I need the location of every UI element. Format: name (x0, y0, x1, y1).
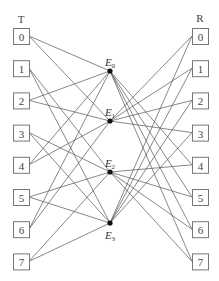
left-box-2: 2 (14, 93, 30, 109)
left-box-1: 1 (14, 61, 30, 77)
edge-t1-e2 (29, 68, 110, 172)
node-e3: E3 (104, 220, 116, 243)
edge-t5-e3 (29, 197, 110, 223)
edge-t1-e3 (29, 68, 110, 223)
right-box-label: 0 (198, 31, 204, 43)
right-box-0: 0 (193, 29, 209, 45)
left-box-label: 6 (19, 224, 25, 236)
edge-e3-r2 (110, 100, 192, 223)
network-diagram: T R 01234567 01234567 E0E1E2E3 (0, 0, 219, 281)
node-e1: E1 (104, 106, 116, 124)
edge-t4-e1 (29, 121, 110, 165)
node-label: E2 (104, 157, 116, 171)
edge-e2-r7 (110, 172, 192, 261)
edge-t7-e2 (29, 172, 110, 261)
edge-e2-r5 (110, 172, 192, 197)
node-label: E3 (104, 229, 116, 243)
edge-e1-r3 (110, 121, 192, 133)
right-box-label: 2 (198, 95, 204, 107)
left-column-label: T (18, 13, 25, 25)
edge-t2-e0 (29, 71, 110, 100)
left-box-label: 2 (19, 95, 25, 107)
edge-e1-r0 (110, 36, 192, 121)
left-box-3: 3 (14, 125, 30, 141)
left-box-label: 5 (19, 192, 25, 204)
left-box-0: 0 (14, 29, 30, 45)
right-box-7: 7 (193, 254, 209, 270)
left-box-6: 6 (14, 222, 30, 238)
edge-e2-r6 (110, 172, 192, 229)
right-boxes: 01234567 (193, 29, 209, 270)
right-box-label: 7 (198, 256, 204, 268)
edge-t0-e0 (29, 36, 110, 71)
right-box-label: 5 (198, 192, 204, 204)
right-box-1: 1 (193, 61, 209, 77)
right-box-6: 6 (193, 222, 209, 238)
right-box-4: 4 (193, 157, 209, 173)
left-box-label: 1 (19, 63, 25, 75)
edge-t6-e0 (29, 71, 110, 229)
right-box-label: 4 (198, 160, 204, 172)
edge-e3-r1 (110, 68, 192, 223)
node-label: E1 (104, 106, 116, 120)
left-box-5: 5 (14, 190, 30, 206)
edge-t5-e2 (29, 172, 110, 197)
left-box-7: 7 (14, 254, 30, 270)
edge-t7-e3 (29, 223, 110, 261)
edge-e3-r0 (110, 36, 192, 223)
right-box-label: 3 (198, 128, 204, 140)
right-box-label: 1 (198, 63, 204, 75)
left-box-label: 4 (19, 160, 25, 172)
node-e0: E0 (104, 56, 116, 74)
node-label: E0 (104, 56, 116, 70)
left-box-label: 3 (19, 128, 25, 140)
left-box-4: 4 (14, 157, 30, 173)
right-box-3: 3 (193, 125, 209, 141)
left-boxes: 01234567 (14, 29, 30, 270)
edge-t6-e1 (29, 121, 110, 229)
left-box-label: 7 (19, 256, 25, 268)
right-box-label: 6 (198, 224, 204, 236)
left-box-label: 0 (19, 31, 25, 43)
right-box-2: 2 (193, 93, 209, 109)
right-column-label: R (196, 12, 204, 24)
edge-t0-e1 (29, 36, 110, 121)
right-box-5: 5 (193, 190, 209, 206)
edge-t3-e2 (29, 133, 110, 172)
